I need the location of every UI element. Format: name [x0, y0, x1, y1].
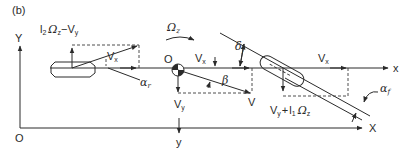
- front-slip-angle-label: αf: [380, 82, 391, 96]
- front-lateral-velocity-label: Vy+l1Ωz: [270, 104, 311, 118]
- cg-vy-label: Vy: [174, 98, 185, 112]
- rear-tire: l2Ωz−Vy Vx αr: [40, 23, 151, 90]
- rear-velocity-vector: [72, 46, 137, 68]
- rear-slip-leader: [108, 68, 140, 80]
- cg-total-velocity-label: V: [248, 96, 256, 108]
- cg-total-velocity-vector: [178, 70, 250, 93]
- center-of-gravity: Vx Vy V β: [172, 52, 256, 112]
- panel-label: (b): [12, 4, 25, 16]
- cg-vx-label: Vx: [195, 52, 206, 65]
- vehicle-origin-label: O: [164, 53, 173, 65]
- rear-slip-angle-label: αr: [140, 76, 151, 90]
- front-slip-line: [285, 78, 362, 120]
- rear-lateral-velocity-label: l2Ωz−Vy: [40, 23, 79, 37]
- front-steer-angle-label: δf: [235, 40, 246, 54]
- rear-vx-label: Vx: [107, 50, 118, 63]
- front-tire: Vx δf Vy+l1Ωz αf: [220, 33, 391, 122]
- yaw-rate-arrow-icon: [166, 37, 194, 40]
- cg-beta-arrow: [208, 82, 210, 88]
- global-x-label: X: [369, 122, 377, 134]
- global-axes: Y O X: [15, 32, 377, 144]
- global-origin-label: O: [15, 132, 24, 144]
- vehicle-x-label: x: [393, 62, 399, 74]
- vehicle-kinematics-diagram: (b) Y O X x y O Ωz l2Ωz−Vy Vx αr: [0, 0, 411, 153]
- rear-tire-shape: [51, 62, 95, 77]
- vehicle-y-label: y: [176, 136, 182, 148]
- front-slip-angle-leader: [364, 92, 378, 102]
- yaw-rate-label: Ωz: [166, 21, 180, 35]
- cg-sideslip-label: β: [221, 74, 228, 87]
- front-vx-label: Vx: [318, 52, 329, 65]
- yaw-rate: Ωz: [166, 21, 194, 40]
- front-tire-shape: [258, 53, 307, 89]
- global-y-label: Y: [15, 32, 23, 44]
- vehicle-axes: x y O: [50, 53, 399, 148]
